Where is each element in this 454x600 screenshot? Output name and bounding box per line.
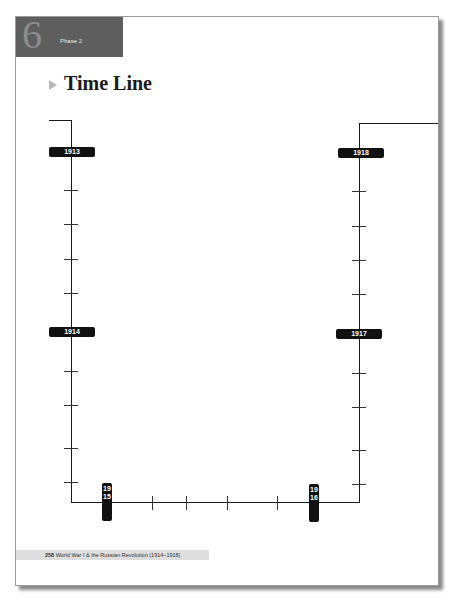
year-label-1914: 1914 <box>49 327 95 337</box>
tick-mark <box>352 260 366 261</box>
tick-mark <box>64 448 78 449</box>
year-label-1917: 1917 <box>336 329 382 339</box>
tick-mark <box>64 293 78 294</box>
tick-mark <box>352 373 366 374</box>
tick-mark <box>64 482 78 483</box>
tick-mark <box>64 405 78 406</box>
timeline-right-line <box>359 123 360 503</box>
triangle-bullet-icon <box>49 80 57 90</box>
year-label-1916: 1916 <box>309 484 319 522</box>
workbook-page: 6 Phase 2 Time Line 1913 1914 1915 1916 … <box>15 16 439 586</box>
tick-mark <box>64 259 78 260</box>
page-number: 258 <box>45 552 54 558</box>
tick-mark <box>277 496 278 510</box>
footer-title: World War I & the Russian Revolution (19… <box>56 552 181 558</box>
tick-mark <box>152 496 153 510</box>
footer: 258 World War I & the Russian Revolution… <box>45 552 180 558</box>
tick-mark <box>352 191 366 192</box>
tick-mark <box>352 294 366 295</box>
timeline-top-right-stub <box>359 123 438 124</box>
timeline-left-line <box>71 120 72 502</box>
tick-mark <box>186 496 187 510</box>
tick-mark <box>352 226 366 227</box>
timeline-top-left-stub <box>49 120 71 121</box>
tick-mark <box>352 484 366 485</box>
year-label-1918: 1918 <box>338 148 384 158</box>
chapter-header: 6 Phase 2 <box>16 17 123 57</box>
year-label-1913: 1913 <box>49 147 95 157</box>
tick-mark <box>64 371 78 372</box>
year-label-1915: 1915 <box>102 483 112 521</box>
tick-mark <box>352 407 366 408</box>
tick-mark <box>64 224 78 225</box>
tick-mark <box>227 496 228 510</box>
page-title: Time Line <box>64 72 152 95</box>
tick-mark <box>352 450 366 451</box>
tick-mark <box>64 190 78 191</box>
chapter-number: 6 <box>22 13 42 57</box>
phase-label: Phase 2 <box>60 38 82 44</box>
